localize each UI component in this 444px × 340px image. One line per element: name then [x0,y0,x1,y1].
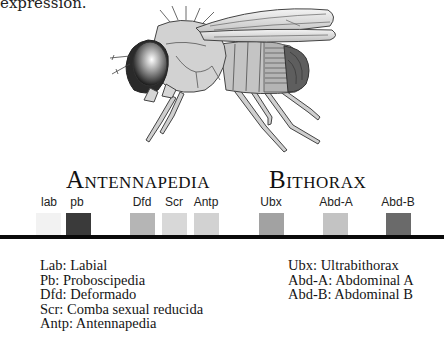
legend-item: Ubx: Ultrabithorax [288,258,414,273]
gene-label-ubx: Ubx [251,195,291,209]
legend-item: Pb: Proboscipedia [40,273,203,288]
gene-box-ubx [259,213,284,236]
gene-label-abd-b: Abd-B [378,195,418,209]
gene-box-dfd [130,213,155,236]
gene-label-abd-a: Abd-A [316,195,356,209]
legend-item: Dfd: Deformado [40,287,203,302]
legend-item: Abd-B: Abdominal B [288,287,414,302]
gene-box-scr [162,213,187,236]
legend-item: Lab: Labial [40,258,203,273]
fruit-fly-illustration [80,0,380,165]
gene-box-lab [36,213,61,236]
legend-item: Scr: Comba sexual reducida [40,302,203,317]
gene-label-antp: Antp [186,195,226,209]
legend-item: Antp: Antennapedia [40,316,203,331]
antennapedia-complex-title: ANTENNAPEDIA [66,166,210,194]
chromosome-line [0,235,444,239]
legend-antennapedia: Lab: Labial Pb: Proboscipedia Dfd: Defor… [40,258,203,331]
legend-item: Abd-A: Abdominal A [288,273,414,288]
gene-box-abd-a [323,213,348,236]
gene-box-antp [194,213,219,236]
cropped-caption-fragment: expression. [0,0,87,12]
gene-label-pb: pb [57,195,97,209]
legend-bithorax: Ubx: Ultrabithorax Abd-A: Abdominal A Ab… [288,258,414,302]
gene-box-pb [66,213,91,236]
gene-box-abd-b [386,213,411,236]
bithorax-complex-title: BITHORAX [269,166,366,194]
